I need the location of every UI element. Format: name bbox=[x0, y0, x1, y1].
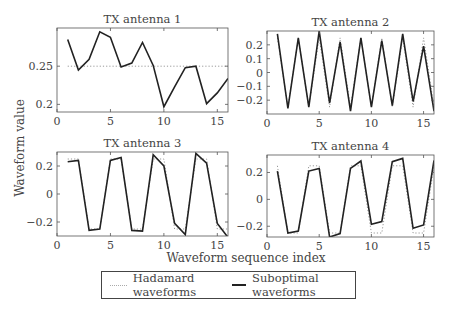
x-tick-label: 10 bbox=[157, 115, 171, 128]
x-tick-label: 5 bbox=[316, 117, 323, 130]
suboptimal-series-line bbox=[277, 31, 434, 111]
x-tick-label: 0 bbox=[54, 115, 61, 128]
solid-line-icon bbox=[232, 284, 246, 286]
suboptimal-series-line bbox=[68, 32, 228, 107]
x-tick-label: 5 bbox=[316, 240, 323, 253]
y-tick-label: −0.2 bbox=[26, 216, 53, 229]
y-tick-label: 0.1 bbox=[246, 53, 264, 66]
axes-frame bbox=[57, 28, 228, 112]
subplot-title: TX antenna 3 bbox=[104, 136, 182, 150]
subplot-tx-antenna-2: TX antenna 2051015−0.2−0.100.10.2 bbox=[236, 15, 434, 130]
y-tick-label: 0.2 bbox=[246, 166, 264, 179]
legend-item-hadamard: Hadamard waveforms bbox=[110, 271, 222, 299]
x-tick-label: 0 bbox=[264, 117, 271, 130]
x-tick-label: 15 bbox=[417, 240, 431, 253]
figure-canvas: Waveform value Waveform sequence index T… bbox=[0, 0, 456, 315]
x-tick-label: 5 bbox=[107, 115, 114, 128]
x-tick-label: 10 bbox=[364, 240, 378, 253]
dotted-line-icon bbox=[110, 285, 127, 286]
x-tick-label: 15 bbox=[210, 239, 224, 252]
x-tick-label: 10 bbox=[157, 239, 171, 252]
y-tick-label: 0 bbox=[256, 67, 263, 80]
suboptimal-series-line bbox=[68, 153, 228, 237]
axes-frame bbox=[57, 152, 228, 236]
subplot-tx-antenna-3: TX antenna 3051015−0.200.2 bbox=[26, 136, 228, 252]
x-tick-label: 0 bbox=[264, 240, 271, 253]
suboptimal-series-line bbox=[277, 158, 434, 237]
x-tick-label: 15 bbox=[417, 117, 431, 130]
legend-item-suboptimal: Suboptimal waveforms bbox=[232, 271, 345, 299]
y-tick-label: −0.2 bbox=[236, 220, 263, 233]
y-tick-label: 0.2 bbox=[36, 98, 54, 111]
subplot-tx-antenna-4: TX antenna 4051015−0.200.2 bbox=[236, 139, 434, 253]
x-tick-label: 10 bbox=[364, 117, 378, 130]
x-tick-label: 15 bbox=[210, 115, 224, 128]
x-axis-label: Waveform sequence index bbox=[166, 251, 325, 265]
legend-label-suboptimal: Suboptimal waveforms bbox=[252, 271, 345, 299]
x-tick-label: 0 bbox=[54, 239, 61, 252]
y-tick-label: 0.2 bbox=[36, 160, 54, 173]
y-tick-label: 0.2 bbox=[246, 39, 264, 52]
y-tick-label: −0.1 bbox=[236, 80, 263, 93]
y-tick-label: −0.2 bbox=[236, 94, 263, 107]
subplot-title: TX antenna 1 bbox=[104, 12, 182, 26]
y-tick-label: 0 bbox=[46, 188, 53, 201]
hadamard-series-line bbox=[277, 166, 434, 233]
y-tick-label: 0 bbox=[256, 193, 263, 206]
subplot-tx-antenna-1: TX antenna 10510150.20.25 bbox=[29, 12, 229, 128]
x-tick-label: 5 bbox=[107, 239, 114, 252]
legend-label-hadamard: Hadamard waveforms bbox=[133, 271, 223, 299]
y-tick-label: 0.25 bbox=[29, 60, 54, 73]
legend: Hadamard waveforms Suboptimal waveforms bbox=[101, 271, 356, 299]
y-axis-label: Waveform value bbox=[13, 99, 27, 197]
subplot-title: TX antenna 2 bbox=[312, 15, 390, 29]
subplot-title: TX antenna 4 bbox=[312, 139, 390, 153]
